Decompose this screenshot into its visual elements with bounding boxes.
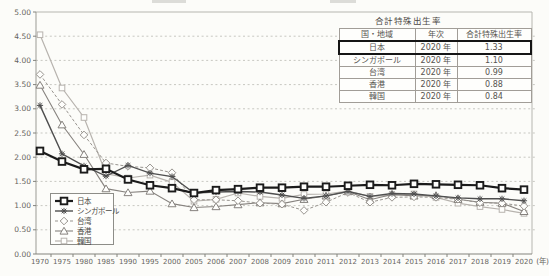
series-singapore-marker [521,198,527,204]
legend-marker-triangle-icon [54,226,74,236]
series-japan-marker [521,186,528,193]
series-singapore-marker [389,190,395,196]
legend-item-korea: 韓国 [54,236,110,246]
series-japan-marker [235,186,242,193]
x-axis-label: 2019 [493,258,511,266]
series-singapore-marker [499,196,505,202]
x-axis-label: 1985 [97,258,115,266]
x-axis-label: 2015 [405,258,423,266]
series-hongkong-marker [80,151,88,158]
table-row: 韓国2020 年0.84 [339,91,531,103]
legend-marker-square-icon [54,236,74,246]
table-cell: 2020 年 [415,79,457,91]
series-singapore-marker [367,193,373,199]
x-axis-label: 2006 [207,258,225,266]
legend-label: 香港 [77,227,91,236]
legend-marker-square-bold-icon [54,196,74,206]
series-japan-marker [345,182,352,189]
table-cell: 0.84 [457,91,531,103]
x-axis-label: 2009 [273,258,291,266]
table-cell: 0.88 [457,79,531,91]
series-japan-marker [389,182,396,189]
y-axis-label: 0.00 [14,250,31,259]
series-japan-marker [169,185,176,192]
y-axis-label: 4.00 [14,56,31,65]
x-axis-label: 2007 [229,258,247,266]
series-hongkong-marker [168,200,176,207]
series-singapore-marker [323,193,329,199]
x-axis-label: 2008 [251,258,269,266]
series-korea-marker [81,115,87,121]
x-axis-label: 1970 [31,258,49,266]
series-singapore-marker [279,192,285,198]
x-axis-label: 2012 [339,258,357,266]
table-cell: シンガポール [339,54,415,67]
series-marker [61,198,68,205]
table-row: 日本2020 年1.33 [339,41,531,54]
y-axis-label: 0.50 [14,225,31,234]
series-singapore-marker [301,195,307,201]
cropped-text-remnant [152,0,186,3]
fertility-table-grid: 国・地域年次合計特殊出生率 日本2020 年1.33シンガポール2020 年1.… [338,28,532,103]
x-axis-label: 2010 [295,258,313,266]
table-header-cell: 年次 [415,29,457,42]
series-singapore-marker [103,173,109,179]
table-row: シンガポール2020 年1.10 [339,54,531,67]
series-singapore-marker [477,196,483,202]
y-axis-label: 4.50 [14,32,31,41]
series-japan-marker [257,184,264,191]
table-cell: 0.99 [457,67,531,79]
series-singapore-marker [169,173,175,179]
legend-label: 台湾 [77,217,91,226]
table-cell: 1.10 [457,54,531,67]
series-singapore-marker [37,102,43,108]
legend-item-japan: 日本 [54,196,110,206]
x-axis-label: 2014 [383,258,401,266]
series-japan-marker [411,181,418,188]
legend-item-singapore: シンガポール [54,206,110,216]
series-japan-marker [59,158,66,165]
series-japan-marker [103,166,110,173]
legend-label: 日本 [77,197,91,206]
x-axis-label: 1975 [53,258,71,266]
table-cell: 1.33 [457,41,531,54]
series-taiwan-marker [234,197,242,205]
series-japan-marker [147,182,154,189]
series-singapore-marker [433,193,439,199]
table-header-row: 国・地域年次合計特殊出生率 [339,29,531,42]
chart-legend: 日本シンガポール台湾香港韓国 [50,193,114,245]
series-japan-marker [499,185,506,192]
series-japan-marker [433,181,440,188]
series-singapore-marker [59,151,65,157]
y-axis-label: 3.00 [14,104,31,113]
series-singapore-marker [411,191,417,197]
x-axis-unit-label: (年) [536,256,549,266]
series-taiwan-marker [80,131,88,139]
series-japan-marker [279,184,286,191]
x-axis-label: 1980 [75,258,93,266]
y-axis-label: 5.00 [14,8,31,17]
series-japan-marker [323,183,330,190]
legend-item-taiwan: 台湾 [54,216,110,226]
series-hongkong-marker [58,121,66,128]
series-japan-marker [477,182,484,189]
x-axis-label: 2016 [427,258,445,266]
series-taiwan-marker [36,71,44,79]
x-axis-label: 2017 [449,258,467,266]
series-japan-marker [37,148,44,155]
cropped-text-remnant [330,0,356,3]
y-axis-label: 1.50 [14,177,31,186]
x-axis-label: 2005 [185,258,203,266]
series-japan-marker [125,176,132,183]
table-header-cell: 合計特殊出生率 [457,29,531,42]
legend-marker-diamond-icon [54,216,74,226]
x-axis-label: 1995 [141,258,159,266]
series-japan-marker [367,181,374,188]
x-axis-label: 2013 [361,258,379,266]
table-cell: 香港 [339,79,415,91]
series-marker [60,217,68,225]
series-marker [61,208,67,214]
series-japan-marker [81,166,88,173]
x-axis-label: 2018 [471,258,489,266]
y-axis-label: 2.50 [14,129,31,138]
